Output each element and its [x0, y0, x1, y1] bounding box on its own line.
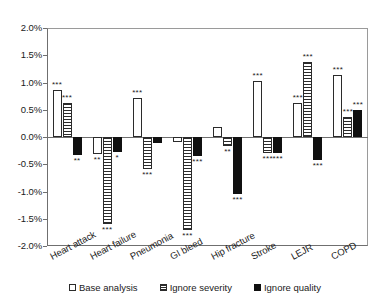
bar-chart: 2.0%1.5%1.0%0.5%0.0%-0.5%-1.0%-1.5%-2.0%… [0, 0, 390, 306]
legend-swatch-severity [160, 284, 167, 291]
chart-legend: Base analysisIgnore severityIgnore quali… [0, 282, 390, 293]
significance-marker: *** [327, 66, 349, 73]
legend-item: Ignore severity [160, 282, 232, 293]
significance-marker: *** [347, 101, 369, 108]
legend-label: Base analysis [79, 282, 138, 293]
legend-label: Ignore severity [170, 282, 232, 293]
legend-item: Ignore quality [254, 282, 321, 293]
legend-swatch-base [69, 284, 76, 291]
y-axis-tick-mark [43, 219, 47, 220]
bar [333, 75, 342, 137]
bar [343, 117, 352, 137]
y-axis-tick-mark [43, 246, 47, 247]
legend-item: Base analysis [69, 282, 138, 293]
legend-label: Ignore quality [264, 282, 321, 293]
y-axis-tick-label: -2.0% [0, 241, 42, 250]
legend-swatch-quality [254, 284, 261, 291]
bar-group: ********* [0, 0, 390, 218]
bar [353, 110, 362, 137]
significance-marker: *** [96, 226, 118, 233]
